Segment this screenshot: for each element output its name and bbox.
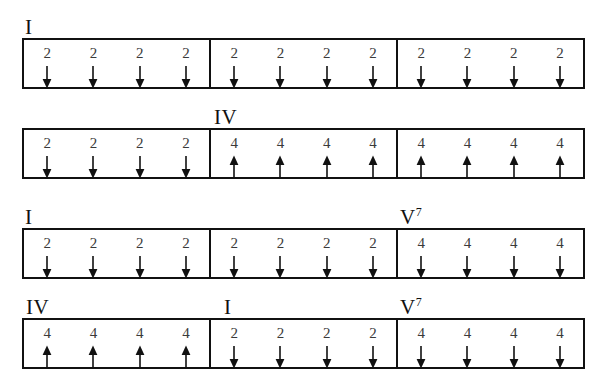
beat: 2 (304, 40, 350, 87)
beat-count: 4 (510, 326, 518, 341)
beat-count: 2 (277, 236, 285, 251)
beat-count: 2 (230, 326, 238, 341)
arrow-down-icon (227, 65, 241, 89)
measure: 2222 (209, 40, 396, 87)
beat: 2 (70, 230, 116, 277)
beat-count: 2 (90, 136, 98, 151)
beat-count: 4 (417, 326, 425, 341)
chord-label: V7 (400, 207, 422, 228)
arrow-down-icon (273, 65, 287, 89)
beat-count: 4 (277, 136, 285, 151)
chord-label-strip: I (0, 8, 609, 38)
chord-numeral: IV (26, 295, 49, 319)
measure: 2222 (209, 230, 396, 277)
measure: 4444 (24, 320, 209, 367)
chord-numeral: I (25, 205, 33, 229)
beat: 2 (117, 230, 163, 277)
beat-count: 4 (417, 236, 425, 251)
arrow-down-icon (227, 255, 241, 279)
measure-system: 444422224444 (22, 318, 585, 369)
beat-count: 4 (43, 326, 51, 341)
arrow-down-icon (507, 345, 521, 369)
measure: 4444 (396, 320, 583, 367)
chord-label: I (25, 17, 33, 38)
beat: 4 (304, 130, 350, 177)
beat: 4 (444, 320, 490, 367)
chord-numeral: V (400, 295, 416, 319)
beat: 2 (163, 130, 209, 177)
beat-count: 4 (230, 136, 238, 151)
beat: 2 (257, 40, 303, 87)
arrow-down-icon (40, 155, 54, 179)
beat-count: 2 (230, 46, 238, 61)
measure-system: 222244444444 (22, 128, 585, 179)
arrow-up-icon (40, 345, 54, 369)
measure: 2222 (396, 40, 583, 87)
beat: 2 (257, 320, 303, 367)
arrow-down-icon (460, 345, 474, 369)
beat-count: 4 (510, 136, 518, 151)
beat-count: 4 (464, 136, 472, 151)
beat: 4 (444, 230, 490, 277)
beat: 2 (350, 40, 396, 87)
beat: 2 (491, 40, 537, 87)
arrow-down-icon (86, 155, 100, 179)
chord-numeral: I (224, 295, 232, 319)
beat: 4 (537, 320, 583, 367)
beat: 2 (211, 230, 257, 277)
beat-count: 2 (43, 236, 51, 251)
beat: 2 (70, 40, 116, 87)
beat: 4 (398, 130, 444, 177)
beat-count: 2 (464, 46, 472, 61)
beat-count: 4 (323, 136, 331, 151)
beat-count: 2 (369, 236, 377, 251)
beat-count: 4 (182, 326, 190, 341)
arrow-down-icon (320, 65, 334, 89)
beat: 2 (211, 320, 257, 367)
beat: 2 (117, 130, 163, 177)
chord-label: I (224, 297, 232, 318)
beat: 4 (24, 320, 70, 367)
arrow-down-icon (133, 65, 147, 89)
beat: 2 (24, 130, 70, 177)
arrow-down-icon (414, 255, 428, 279)
beat: 4 (491, 130, 537, 177)
beat-count: 2 (230, 236, 238, 251)
arrow-down-icon (320, 255, 334, 279)
beat: 4 (257, 130, 303, 177)
beat: 2 (163, 230, 209, 277)
beat-count: 2 (369, 46, 377, 61)
beat-count: 4 (417, 136, 425, 151)
beat: 2 (211, 40, 257, 87)
beat: 4 (398, 230, 444, 277)
chord-numeral: IV (214, 105, 237, 129)
arrow-down-icon (366, 345, 380, 369)
arrow-up-icon (553, 155, 567, 179)
arrow-down-icon (414, 345, 428, 369)
beat: 2 (163, 40, 209, 87)
arrow-down-icon (179, 155, 193, 179)
arrow-down-icon (40, 255, 54, 279)
beat: 4 (491, 230, 537, 277)
measure: 4444 (396, 230, 583, 277)
beat-count: 2 (136, 236, 144, 251)
beat: 2 (304, 230, 350, 277)
arrow-up-icon (414, 155, 428, 179)
measure: 2222 (209, 320, 396, 367)
beat-count: 2 (182, 46, 190, 61)
beat: 4 (350, 130, 396, 177)
beat: 2 (537, 40, 583, 87)
beat: 4 (444, 130, 490, 177)
beat-count: 2 (277, 46, 285, 61)
beat-count: 2 (369, 326, 377, 341)
measure: 4444 (396, 130, 583, 177)
chord-label-strip: IVIV7 (0, 288, 609, 318)
beat-count: 2 (182, 136, 190, 151)
beat-count: 2 (277, 326, 285, 341)
arrow-down-icon (553, 345, 567, 369)
arrow-down-icon (553, 65, 567, 89)
beat-count: 2 (556, 46, 564, 61)
beat-count: 2 (417, 46, 425, 61)
beat-count: 4 (510, 236, 518, 251)
arrow-down-icon (179, 65, 193, 89)
